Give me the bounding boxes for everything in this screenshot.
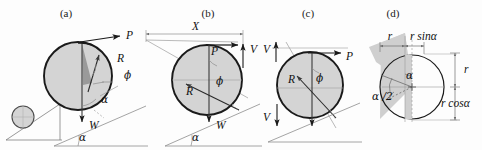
panel-d-dimension-r-sin-alpha bbox=[405, 42, 424, 54]
label-angle-alpha-inner-a: α bbox=[101, 93, 108, 105]
label-angle-alpha-incline-a: α bbox=[79, 131, 86, 143]
label-force-P-b: P bbox=[210, 45, 218, 57]
panel-label-b: (b) bbox=[202, 7, 215, 20]
label-force-P-c: P bbox=[345, 50, 353, 62]
label-angle-alpha-incline-b: α bbox=[192, 131, 199, 143]
label-dimension-r-cos-alpha-d: r cosα bbox=[441, 97, 471, 109]
panel-c-roller bbox=[277, 52, 343, 118]
label-dimension-r-top-d: r bbox=[388, 30, 393, 42]
panel-label-a: (a) bbox=[60, 7, 73, 20]
panel-label-c: (c) bbox=[302, 7, 315, 20]
figure-root: (a) P R ϕ α W α bbox=[0, 0, 482, 150]
label-weight-W-b: W bbox=[216, 119, 227, 131]
label-reaction-R-c: R bbox=[287, 73, 295, 85]
panel-c: (c) P R ϕ V V bbox=[263, 7, 362, 142]
label-force-V-top-c: V bbox=[263, 43, 272, 55]
label-angle-phi-b: ϕ bbox=[216, 75, 223, 87]
label-force-V-bottom-c: V bbox=[263, 111, 272, 123]
label-reaction-R-b: R bbox=[185, 85, 193, 97]
panel-d: (d) r r sinα r r cosα α α /2 bbox=[369, 7, 471, 124]
label-angle-phi-a: ϕ bbox=[124, 69, 131, 81]
label-angle-alpha-half-d: α /2 bbox=[372, 90, 393, 102]
label-force-V-right-b: V bbox=[250, 43, 259, 55]
label-reaction-R-a: R bbox=[116, 52, 124, 64]
label-dimension-r-right-d: r bbox=[464, 63, 469, 75]
label-dimension-r-sin-alpha-d: r sinα bbox=[410, 30, 438, 42]
panel-label-d: (d) bbox=[387, 7, 400, 20]
panel-a-incline bbox=[54, 106, 148, 146]
label-dimension-X-b: X bbox=[191, 20, 200, 32]
label-angle-phi-c: ϕ bbox=[316, 72, 323, 84]
panel-a: (a) P R ϕ α W α bbox=[6, 7, 148, 146]
label-force-P-a: P bbox=[125, 29, 133, 41]
diagram-canvas: (a) P R ϕ α W α bbox=[0, 0, 482, 150]
panel-a-inset bbox=[6, 104, 62, 140]
panel-d-dimension-r-right bbox=[450, 53, 460, 87]
label-angle-alpha-d: α bbox=[406, 69, 413, 81]
panel-b: (b) X P R ϕ W α V bbox=[146, 7, 262, 146]
label-weight-W-a: W bbox=[89, 119, 100, 131]
